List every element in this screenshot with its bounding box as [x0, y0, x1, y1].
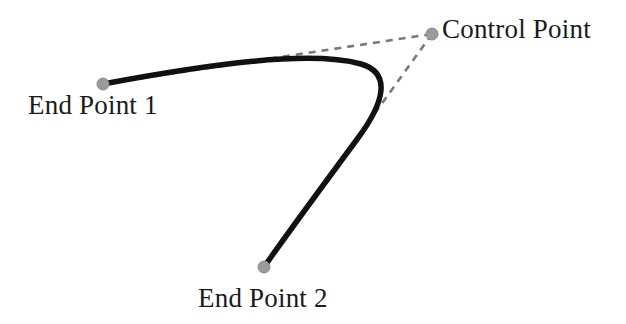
end-point-2-marker[interactable] [258, 261, 270, 273]
control-point-marker[interactable] [426, 28, 438, 40]
end-point-2-label: End Point 2 [198, 285, 328, 312]
end-point-1-label: End Point 1 [28, 92, 158, 119]
control-point-label: Control Point [442, 16, 591, 43]
bezier-diagram-svg [0, 0, 626, 324]
end-point-1-marker[interactable] [97, 78, 109, 90]
bezier-diagram-canvas: End Point 1 End Point 2 Control Point [0, 0, 626, 324]
